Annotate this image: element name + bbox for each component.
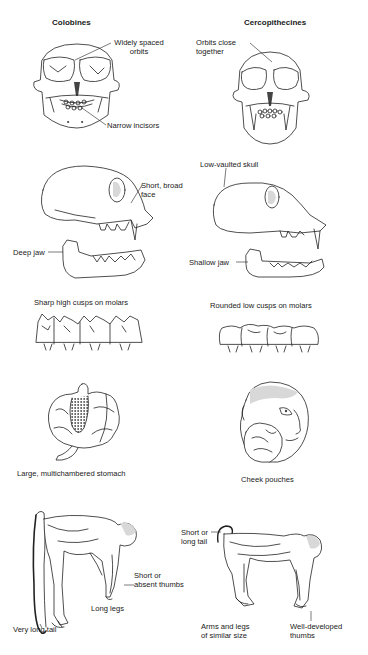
colobines-title: Colobines [52, 18, 91, 27]
deep-jaw-label: Deep jaw [13, 248, 45, 257]
label-line: Orbits close [196, 38, 236, 47]
stomach-icon [44, 380, 124, 465]
label-line: Well-developed [290, 622, 342, 631]
label-line: Short or [134, 571, 184, 580]
cercopithecine-molars-icon [218, 320, 320, 352]
label-line: long tail [181, 537, 208, 546]
short-or-absent-thumbs-label: Short or absent thumbs [134, 571, 184, 589]
monkey-head-cheek-pouch-icon [236, 380, 312, 465]
figure-caption-clipped [4, 648, 368, 655]
narrow-incisors-label: Narrow incisors [107, 121, 159, 130]
label-line: Short or [181, 528, 208, 537]
cheek-pouches-label: Cheek pouches [241, 475, 294, 484]
label-line: thumbs [290, 631, 342, 640]
label-line: face [141, 190, 183, 199]
widely-spaced-orbits-label: Widely spaced orbits [111, 38, 167, 56]
label-line: of similar size [201, 631, 250, 640]
rounded-low-cusps-label: Rounded low cusps on molars [210, 301, 312, 310]
orbits-close-together-label: Orbits close together [196, 38, 236, 56]
stomach-label: Large, multichambered stomach [17, 469, 125, 478]
label-line: Arms and legs [201, 622, 250, 631]
very-long-tail-label: Very long tail [13, 625, 56, 634]
label-line: Short, broad [141, 181, 183, 190]
short-broad-face-label: Short, broad face [141, 181, 183, 199]
colobine-skull-side-icon [35, 160, 150, 280]
label-line: orbits [111, 47, 167, 56]
well-developed-thumbs-label: Well-developed thumbs [290, 622, 342, 640]
arms-legs-similar-size-label: Arms and legs of similar size [201, 622, 250, 640]
cercopithecines-title: Cercopithecines [244, 18, 306, 27]
label-line: Widely spaced [111, 38, 167, 47]
cercopithecine-body-icon [214, 520, 326, 620]
label-line: together [196, 47, 236, 56]
low-vaulted-skull-label: Low-vaulted skull [200, 160, 258, 169]
long-legs-label: Long legs [91, 604, 124, 613]
cercopithecine-skull-front-icon [228, 50, 313, 145]
sharp-high-cusps-label: Sharp high cusps on molars [34, 298, 128, 307]
short-or-long-tail-label: Short or long tail [181, 528, 208, 546]
colobine-body-icon [28, 505, 140, 640]
colobine-molars-icon [34, 312, 144, 352]
label-line: absent thumbs [134, 580, 184, 589]
shallow-jaw-label: Shallow jaw [189, 258, 229, 267]
